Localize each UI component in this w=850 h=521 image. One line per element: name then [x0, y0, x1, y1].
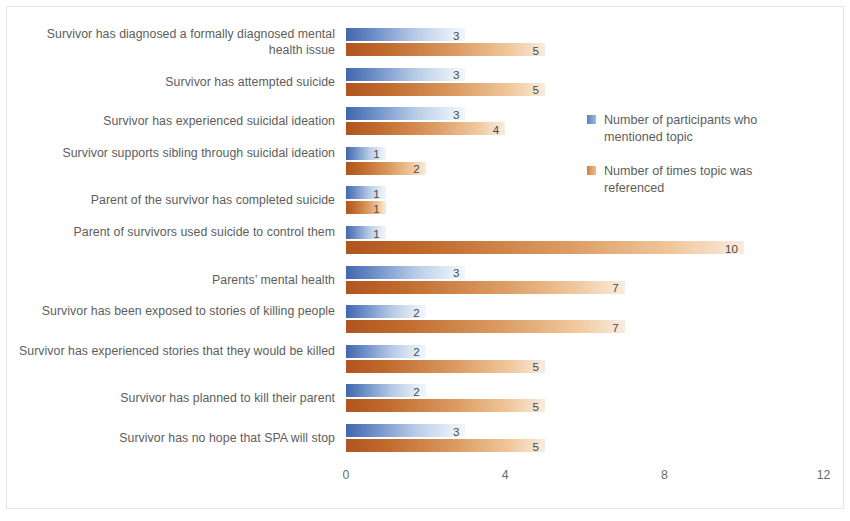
- bar-value-label: 2: [413, 305, 419, 318]
- category-label: Survivor has been exposed to stories of …: [15, 304, 335, 320]
- bar-value-label: 3: [453, 266, 459, 279]
- bar-group: 35: [346, 424, 545, 454]
- bar-value-label: 4: [493, 122, 499, 135]
- bar-group: 34: [346, 107, 505, 137]
- bar-group: 35: [346, 68, 545, 98]
- bar-series-0[interactable]: 3: [346, 107, 465, 120]
- bar-series-0[interactable]: 1: [346, 186, 386, 199]
- bar-series-1[interactable]: 2: [346, 162, 426, 175]
- x-axis-tick: 0: [343, 468, 350, 482]
- bar-value-label: 5: [533, 43, 539, 56]
- bar-series-1[interactable]: 10: [346, 241, 744, 254]
- bar-series-0[interactable]: 2: [346, 384, 426, 397]
- bar-series-0[interactable]: 3: [346, 266, 465, 279]
- bar-series-1[interactable]: 5: [346, 43, 545, 56]
- bar-series-1[interactable]: 5: [346, 360, 545, 373]
- bar-value-label: 5: [533, 399, 539, 412]
- chart-category-row: Survivor has planned to kill their paren…: [0, 384, 850, 414]
- chart-category-row: Survivor has experienced stories that th…: [0, 345, 850, 375]
- bar-series-0[interactable]: 3: [346, 68, 465, 81]
- bar-value-label: 7: [612, 320, 618, 333]
- legend-swatch-series-0-icon: [587, 115, 596, 124]
- category-label: Parent of the survivor has completed sui…: [15, 193, 335, 209]
- legend-item[interactable]: Number of times topic was referenced: [587, 163, 837, 196]
- bar-value-label: 1: [373, 147, 379, 160]
- category-label: Survivor has experienced suicidal ideati…: [15, 114, 335, 130]
- bar-value-label: 2: [413, 384, 419, 397]
- bar-group: 27: [346, 305, 625, 335]
- bar-group: 35: [346, 28, 545, 58]
- chart-category-row: Parents’ mental health37: [0, 266, 850, 296]
- chart-category-row: Survivor has attempted suicide35: [0, 68, 850, 98]
- chart-container: Survivor has diagnosed a formally diagno…: [0, 0, 850, 521]
- bar-group: 12: [346, 147, 426, 177]
- category-label: Survivor has no hope that SPA will stop: [15, 431, 335, 447]
- bar-series-1[interactable]: 4: [346, 122, 505, 135]
- bar-value-label: 3: [453, 107, 459, 120]
- x-axis: 04812: [346, 468, 824, 492]
- chart-category-row: Parent of survivors used suicide to cont…: [0, 226, 850, 256]
- bar-series-0[interactable]: 3: [346, 424, 465, 437]
- bar-value-label: 10: [725, 241, 738, 254]
- x-axis-tick: 4: [502, 468, 509, 482]
- chart-category-row: Survivor has been exposed to stories of …: [0, 305, 850, 335]
- bar-series-1[interactable]: 5: [346, 83, 545, 96]
- chart-category-row: Survivor has diagnosed a formally diagno…: [0, 28, 850, 58]
- bar-group: 11: [346, 186, 386, 216]
- legend-label: Number of times topic was referenced: [604, 163, 814, 196]
- bar-value-label: 2: [413, 345, 419, 358]
- legend-swatch-series-1-icon: [587, 166, 596, 175]
- category-label: Survivor has diagnosed a formally diagno…: [15, 27, 335, 58]
- bar-group: 25: [346, 384, 545, 414]
- x-axis-tick: 12: [817, 468, 831, 482]
- bar-value-label: 1: [373, 186, 379, 199]
- legend-item[interactable]: Number of participants who mentioned top…: [587, 112, 837, 145]
- bar-value-label: 3: [453, 28, 459, 41]
- bar-series-1[interactable]: 5: [346, 439, 545, 452]
- bar-value-label: 1: [373, 201, 379, 214]
- bar-group: 110: [346, 226, 744, 256]
- legend-label: Number of participants who mentioned top…: [604, 112, 814, 145]
- bar-series-0[interactable]: 3: [346, 28, 465, 41]
- category-label: Survivor has attempted suicide: [15, 75, 335, 91]
- bar-value-label: 5: [533, 439, 539, 452]
- chart-category-row: Survivor has no hope that SPA will stop3…: [0, 424, 850, 454]
- bar-group: 37: [346, 266, 625, 296]
- bar-series-0[interactable]: 2: [346, 345, 426, 358]
- bar-value-label: 1: [373, 226, 379, 239]
- x-axis-tick: 8: [661, 468, 668, 482]
- bar-group: 25: [346, 345, 545, 375]
- bar-value-label: 5: [533, 360, 539, 373]
- bar-value-label: 3: [453, 424, 459, 437]
- bar-value-label: 7: [612, 281, 618, 294]
- bar-series-0[interactable]: 2: [346, 305, 426, 318]
- category-label: Survivor supports sibling through suicid…: [15, 146, 335, 162]
- bar-value-label: 5: [533, 83, 539, 96]
- category-label: Survivor has planned to kill their paren…: [15, 391, 335, 407]
- bar-series-0[interactable]: 1: [346, 147, 386, 160]
- bar-value-label: 2: [413, 162, 419, 175]
- bar-series-1[interactable]: 1: [346, 201, 386, 214]
- category-label: Survivor has experienced stories that th…: [15, 344, 335, 360]
- category-label: Parents’ mental health: [15, 273, 335, 289]
- category-label: Parent of survivors used suicide to cont…: [15, 225, 335, 241]
- plot-area: Survivor has diagnosed a formally diagno…: [0, 0, 850, 521]
- chart-legend: Number of participants who mentioned top…: [587, 112, 837, 214]
- bar-series-1[interactable]: 5: [346, 399, 545, 412]
- bar-series-0[interactable]: 1: [346, 226, 386, 239]
- bar-value-label: 3: [453, 68, 459, 81]
- bar-series-1[interactable]: 7: [346, 320, 625, 333]
- bar-series-1[interactable]: 7: [346, 281, 625, 294]
